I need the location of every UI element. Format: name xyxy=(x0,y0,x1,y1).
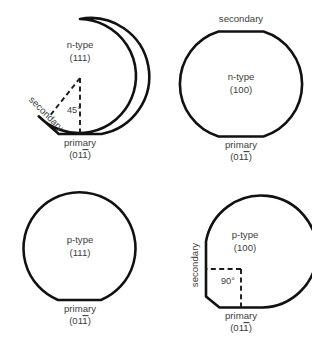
angle-label-45-n111: 45° xyxy=(67,105,81,115)
primary-index-n100: (011) xyxy=(230,151,252,162)
primary-index-prefix-p111: (01 xyxy=(69,315,83,326)
primary-index-suffix-n111: ) xyxy=(88,149,91,160)
primary-index-suffix-p111: ) xyxy=(88,315,91,326)
wafer-orientation-label-n111: (111) xyxy=(70,52,91,63)
primary-flat-label-p100: primary xyxy=(225,310,257,321)
secondary-flat-label-n111: secondary xyxy=(27,94,66,133)
primary-index-prefix-n100: (01 xyxy=(230,151,244,162)
primary-index-p100: (011) xyxy=(230,322,252,333)
primary-index-suffix-n100: ) xyxy=(249,151,252,162)
svg-text:(011): (011) xyxy=(230,322,252,333)
wafer-doping-label-n100: n-type xyxy=(228,71,255,82)
wafer-doping-label-n111: n-type xyxy=(67,39,94,50)
svg-text:(011): (011) xyxy=(69,315,91,326)
primary-index-p111: (011) xyxy=(69,315,91,326)
wafer-orientation-label-p100: (100) xyxy=(234,242,256,253)
wafer-diagram-n-type-111: n-type (111) 45° secondary primary (011) xyxy=(27,18,149,160)
secondary-flat-label-n100: secondary xyxy=(219,13,263,24)
wafer-orientation-label-p111: (111) xyxy=(70,247,91,258)
wafer-outline-p-type-100 xyxy=(206,196,312,308)
wafer-orientation-label-n100: (100) xyxy=(230,84,252,95)
angle-label-90-p100: 90° xyxy=(221,276,235,286)
primary-index-prefix-n111: (01 xyxy=(69,149,83,160)
wafer-diagram-n-type-100: secondary n-type (100) primary (011) xyxy=(180,13,302,162)
primary-flat-label-p111: primary xyxy=(64,303,96,314)
wafer-diagram-p-type-111: p-type (111) primary (011) xyxy=(24,192,136,326)
secondary-flat-label-p100: secondary xyxy=(189,243,200,287)
svg-text:(011): (011) xyxy=(230,151,252,162)
primary-index-prefix-p100: (01 xyxy=(230,322,244,333)
wafer-doping-label-p111: p-type xyxy=(67,234,94,245)
primary-index-n111: (011) xyxy=(69,149,91,160)
wafer-orientation-figure: n-type (111) 45° secondary primary (011)… xyxy=(0,0,312,340)
svg-text:(011): (011) xyxy=(69,149,91,160)
wafer-doping-label-p100: p-type xyxy=(232,229,259,240)
primary-flat-label-n111: primary xyxy=(64,137,96,148)
primary-index-suffix-p100: ) xyxy=(249,322,252,333)
primary-flat-label-n100: primary xyxy=(225,139,257,150)
wafer-diagram-p-type-100: secondary p-type (100) 90° primary (011) xyxy=(189,196,312,333)
